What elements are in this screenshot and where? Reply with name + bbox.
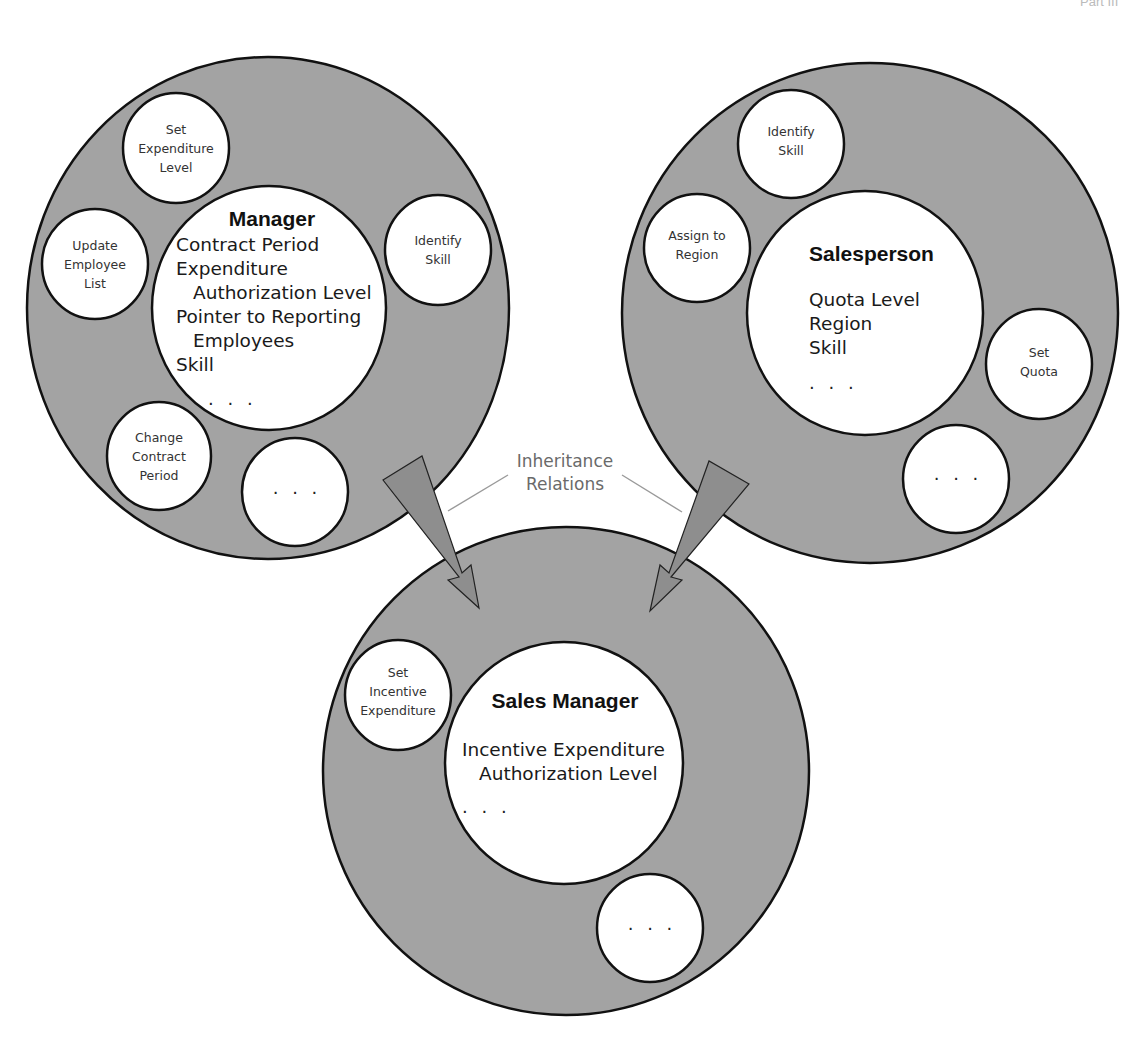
class-title: Manager [229, 207, 315, 230]
svg-text:. . .: . . . [462, 796, 511, 817]
svg-text:Employee: Employee [64, 257, 126, 272]
method-set-expenditure-level: Set Expenditure Level [123, 93, 229, 203]
svg-text:Skill: Skill [176, 354, 214, 375]
svg-text:Contract Period: Contract Period [176, 234, 319, 255]
svg-text:Incentive Expenditure: Incentive Expenditure [462, 739, 665, 760]
salesperson-data-core: Salesperson Quota Level Region Skill . .… [747, 191, 983, 435]
svg-text:. . .: . . . [628, 913, 677, 934]
manager-object: Set Expenditure Level Update Employee Li… [27, 57, 509, 559]
svg-text:Expenditure: Expenditure [138, 141, 214, 156]
method-more: . . . [903, 425, 1009, 533]
svg-text:. . .: . . . [934, 463, 983, 484]
svg-text:Region: Region [809, 313, 872, 334]
inheritance-relations-label: Inheritance Relations [448, 451, 682, 512]
inheritance-diagram: Part III Set Expenditure Level Update Em… [0, 0, 1136, 1045]
svg-text:Period: Period [140, 468, 179, 483]
svg-text:. . .: . . . [208, 388, 257, 409]
method-set-incentive-expenditure: Set Incentive Expenditure [345, 640, 451, 750]
svg-text:Set: Set [166, 122, 187, 137]
svg-text:Authorization Level: Authorization Level [479, 763, 658, 784]
class-title: Salesperson [809, 242, 934, 265]
svg-text:Inheritance: Inheritance [517, 451, 613, 471]
svg-text:List: List [84, 276, 106, 291]
method-more: . . . [242, 438, 348, 546]
svg-text:Level: Level [160, 160, 193, 175]
svg-text:Change: Change [135, 430, 183, 445]
class-title: Sales Manager [491, 689, 638, 712]
svg-text:Pointer to Reporting: Pointer to Reporting [176, 306, 361, 327]
svg-text:. . .: . . . [273, 477, 322, 498]
method-identify-skill: Identify Skill [738, 90, 844, 198]
svg-text:Skill: Skill [778, 143, 804, 158]
method-assign-to-region: Assign to Region [644, 194, 750, 302]
sales-manager-object: Set Incentive Expenditure . . . Sales Ma… [323, 527, 809, 1015]
svg-text:Assign to: Assign to [668, 228, 725, 243]
leader-line [622, 475, 682, 512]
svg-text:Contract: Contract [132, 449, 186, 464]
sales-manager-data-core: Sales Manager Incentive Expenditure Auth… [445, 642, 683, 884]
svg-text:Expenditure: Expenditure [176, 258, 288, 279]
svg-text:Region: Region [676, 247, 719, 262]
svg-text:Expenditure: Expenditure [360, 703, 436, 718]
method-set-quota: Set Quota [986, 309, 1092, 419]
svg-text:Authorization Level: Authorization Level [193, 282, 372, 303]
svg-text:Identify: Identify [414, 233, 462, 248]
method-identify-skill: Identify Skill [385, 195, 491, 305]
svg-text:Set: Set [1029, 345, 1050, 360]
svg-text:. . .: . . . [809, 372, 858, 393]
salesperson-object: Identify Skill Assign to Region Set Quot… [622, 63, 1118, 563]
svg-text:Employees: Employees [193, 330, 294, 351]
svg-text:Skill: Skill [809, 337, 847, 358]
svg-text:Set: Set [388, 665, 409, 680]
method-change-contract-period: Change Contract Period [107, 402, 211, 510]
method-update-employee-list: Update Employee List [42, 209, 148, 319]
svg-text:Skill: Skill [425, 252, 451, 267]
page-header-fragment: Part III [1080, 0, 1118, 9]
manager-data-core: Manager Contract Period Expenditure Auth… [152, 186, 386, 430]
svg-text:Relations: Relations [526, 474, 604, 494]
svg-text:Update: Update [72, 238, 118, 253]
svg-text:Quota: Quota [1020, 364, 1058, 379]
svg-text:Incentive: Incentive [369, 684, 427, 699]
method-more: . . . [597, 874, 703, 982]
svg-text:Quota Level: Quota Level [809, 289, 920, 310]
leader-line [448, 475, 508, 511]
svg-text:Identify: Identify [767, 124, 815, 139]
